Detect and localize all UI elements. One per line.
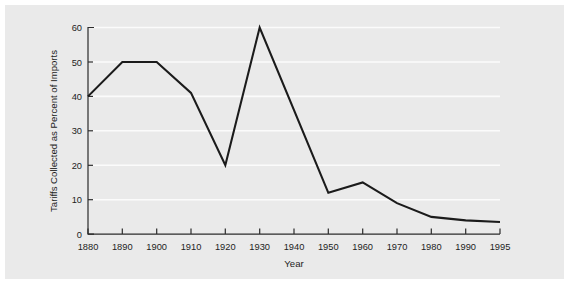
x-tick-label-1900: 1900 — [146, 242, 167, 252]
chart-figure: 0 10 20 30 40 50 60 1880 1890 1900 1910 … — [5, 5, 564, 279]
y-tick-label-60: 60 — [72, 23, 82, 33]
chart-plot-area: 0 10 20 30 40 50 60 1880 1890 1900 1910 … — [5, 5, 564, 279]
x-tick-label-1990: 1990 — [455, 242, 476, 252]
x-tick-marks — [122, 229, 465, 235]
x-tick-labels: 1880 1890 1900 1910 1920 1930 1940 1950 … — [78, 242, 511, 252]
y-tick-labels: 0 10 20 30 40 50 60 — [72, 23, 82, 240]
y-tick-marks — [88, 62, 93, 200]
y-tick-label-40: 40 — [72, 92, 82, 102]
x-tick-label-1960: 1960 — [352, 242, 373, 252]
y-tick-label-50: 50 — [72, 58, 82, 68]
x-tick-label-1980: 1980 — [421, 242, 442, 252]
y-axis-title: Tariffs Collected as Percent of Imports — [48, 50, 59, 212]
x-tick-label-1930: 1930 — [249, 242, 270, 252]
x-axis-title: Year — [284, 258, 304, 269]
x-tick-label-1995: 1995 — [490, 242, 511, 252]
x-tick-label-1950: 1950 — [318, 242, 339, 252]
y-tick-label-10: 10 — [72, 195, 82, 205]
line-chart-svg: 0 10 20 30 40 50 60 1880 1890 1900 1910 … — [5, 5, 564, 279]
x-tick-label-1920: 1920 — [215, 242, 236, 252]
y-tick-label-0: 0 — [77, 230, 82, 240]
y-tick-label-30: 30 — [72, 126, 82, 136]
tariff-series-line — [88, 28, 500, 223]
x-tick-label-1940: 1940 — [284, 242, 305, 252]
x-tick-label-1910: 1910 — [181, 242, 202, 252]
x-tick-label-1880: 1880 — [78, 242, 99, 252]
x-tick-label-1970: 1970 — [387, 242, 408, 252]
gridlines — [88, 28, 500, 200]
y-tick-label-20: 20 — [72, 161, 82, 171]
x-tick-label-1890: 1890 — [112, 242, 133, 252]
